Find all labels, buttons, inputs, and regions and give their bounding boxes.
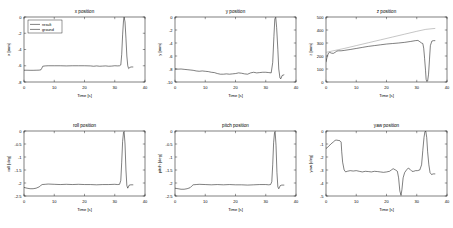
plot-title: y position: [226, 9, 246, 14]
x-axis-label: Time [s]: [379, 93, 394, 98]
series-group: [175, 132, 284, 190]
y-tick-label: -6: [18, 63, 22, 68]
y-axis-label: roll [deg]: [6, 155, 11, 171]
x-tick-label: 10: [203, 199, 208, 204]
plot-title: roll position: [73, 123, 97, 128]
series-group: [326, 131, 435, 195]
y-tick-label: -10: [167, 80, 174, 85]
plot-panel-pitch-position: 0102030400-0.5-1-1.5-2-2.5pitch position…: [151, 114, 302, 228]
plot-title: pitch position: [222, 123, 249, 128]
y-tick-label: -8: [169, 67, 173, 72]
y-tick-label: -2: [320, 155, 324, 160]
series-line-result: [175, 17, 284, 78]
y-tick-label: -2: [169, 181, 173, 186]
y-tick-label: -2.5: [15, 194, 23, 199]
plot-panel-z-position: 0102030400100200300400500z positionTime …: [302, 0, 453, 114]
plot-panel-x-position: 0102030400-2-4-6-8x positionTime [s]x [m…: [0, 0, 151, 114]
y-tick-label: 500: [317, 15, 324, 20]
y-tick-label: -2: [18, 31, 22, 36]
y-tick-label: 300: [317, 41, 324, 46]
plot-panel-y-position: 0102030400-2-4-6-8-10y positionTime [s]y…: [151, 0, 302, 114]
y-tick-label: 400: [317, 28, 324, 33]
x-tick-label: 20: [82, 199, 87, 204]
figure-canvas: 0102030400-2-4-6-8x positionTime [s]x [m…: [0, 0, 453, 228]
y-axis-label: x [mm]: [6, 43, 11, 56]
x-tick-label: 40: [445, 85, 450, 90]
x-tick-label: 0: [325, 199, 328, 204]
y-tick-label: 100: [317, 67, 324, 72]
x-axis-label: Time [s]: [77, 207, 92, 212]
y-tick-label: -1: [18, 155, 22, 160]
x-axis-label: Time [s]: [228, 207, 243, 212]
y-tick-label: -4: [18, 47, 22, 52]
y-tick-label: -1.5: [15, 168, 23, 173]
x-tick-label: 40: [143, 85, 148, 90]
y-tick-label: -2: [18, 181, 22, 186]
x-tick-label: 30: [264, 85, 269, 90]
x-tick-label: 40: [294, 85, 299, 90]
x-axis-label: Time [s]: [77, 93, 92, 98]
series-line-result: [24, 132, 133, 189]
x-tick-label: 40: [294, 199, 299, 204]
x-tick-label: 20: [82, 85, 87, 90]
y-tick-label: -2: [169, 28, 173, 33]
x-tick-label: 30: [113, 199, 118, 204]
x-tick-label: 20: [233, 199, 238, 204]
y-tick-label: -1.5: [166, 168, 174, 173]
x-tick-label: 0: [23, 199, 26, 204]
legend-label-ground: ground: [42, 28, 54, 32]
y-tick-label: -4: [169, 41, 173, 46]
x-tick-label: 40: [445, 199, 450, 204]
y-tick-label: -0.5: [166, 142, 174, 147]
x-tick-label: 0: [325, 85, 328, 90]
y-tick-label: -1: [169, 155, 173, 160]
x-tick-label: 10: [52, 85, 57, 90]
x-tick-label: 30: [415, 85, 420, 90]
x-axis-label: Time [s]: [228, 93, 243, 98]
x-tick-label: 10: [354, 85, 359, 90]
y-tick-label: -4: [320, 181, 324, 186]
y-tick-label: 0: [321, 129, 324, 134]
y-axis-label: yaw [deg]: [308, 155, 313, 173]
x-tick-label: 0: [174, 85, 177, 90]
y-tick-label: -0.5: [15, 142, 23, 147]
x-tick-label: 0: [174, 199, 177, 204]
x-tick-label: 0: [23, 85, 26, 90]
y-axis-label: pitch [deg]: [157, 154, 162, 173]
y-tick-label: -2.5: [166, 194, 174, 199]
plot-title: x position: [75, 9, 95, 14]
x-tick-label: 10: [203, 85, 208, 90]
series-group: [175, 17, 284, 78]
y-tick-label: -3: [320, 168, 324, 173]
x-axis-label: Time [s]: [379, 207, 394, 212]
x-tick-label: 30: [264, 199, 269, 204]
series-line-result: [175, 132, 284, 190]
series-line-result: [326, 131, 435, 195]
series-line-ground: [326, 28, 435, 52]
y-tick-label: -5: [320, 194, 324, 199]
y-axis-label: z [mm]: [308, 43, 313, 56]
plot-panel-roll-position: 0102030400-0.5-1-1.5-2-2.5roll positionT…: [0, 114, 151, 228]
x-tick-label: 40: [143, 199, 148, 204]
plot-title: yaw position: [374, 123, 400, 128]
x-tick-label: 10: [52, 199, 57, 204]
y-tick-label: 0: [19, 15, 22, 20]
series-line-result: [326, 40, 435, 81]
x-tick-label: 30: [415, 199, 420, 204]
y-tick-label: 200: [317, 54, 324, 59]
plot-panel-yaw-position: 0102030400-1-2-3-4-5yaw positionTime [s]…: [302, 114, 453, 228]
series-group: [326, 28, 435, 81]
x-tick-label: 20: [233, 85, 238, 90]
plot-title: z position: [377, 9, 397, 14]
y-tick-label: 0: [170, 15, 173, 20]
x-tick-label: 10: [354, 199, 359, 204]
y-tick-label: 0: [321, 80, 324, 85]
y-tick-label: 0: [170, 129, 173, 134]
y-tick-label: 0: [19, 129, 22, 134]
x-tick-label: 20: [384, 199, 389, 204]
y-tick-label: -1: [320, 142, 324, 147]
y-axis-label: y [mm]: [157, 43, 162, 56]
x-tick-label: 30: [113, 85, 118, 90]
legend-label-result: result: [42, 23, 52, 27]
series-group: [24, 132, 133, 189]
